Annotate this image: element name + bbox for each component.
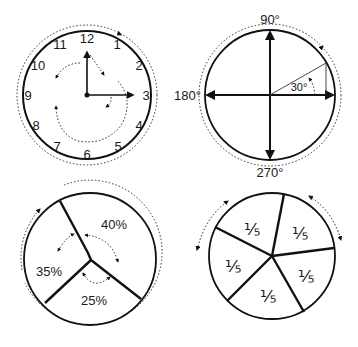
fifths-label-right: ⅕ (298, 267, 314, 286)
fifths-label-top-left: ⅕ (244, 220, 260, 239)
angle-label-180: 180° (174, 88, 201, 103)
angle-label-270: 270° (257, 165, 284, 180)
angle-label-90: 90° (260, 12, 280, 27)
angle-label-30: 30° (291, 81, 308, 93)
circle-diagrams-figure: 12 1 2 3 4 5 6 7 8 9 10 11 30° (0, 0, 358, 347)
clock-number-9: 9 (24, 88, 31, 103)
fifths-label-bottom: ⅕ (260, 287, 276, 306)
clock-number-7: 7 (53, 139, 60, 154)
clock-number-4: 4 (135, 118, 142, 133)
clock-diagram: 12 1 2 3 4 5 6 7 8 9 10 11 (17, 25, 157, 165)
pie-label-40: 40% (101, 217, 127, 232)
clock-number-3: 3 (142, 88, 149, 103)
clock-number-11: 11 (53, 37, 67, 52)
fifths-label-top-right: ⅕ (292, 224, 308, 243)
clock-number-10: 10 (31, 58, 45, 73)
fifths-pie-diagram: ⅕ ⅕ ⅕ ⅕ ⅕ (197, 193, 341, 319)
clock-number-2: 2 (135, 58, 142, 73)
percent-pie-diagram: 40% 35% 25% (21, 180, 162, 325)
clock-number-12: 12 (80, 31, 94, 46)
clock-number-5: 5 (114, 139, 121, 154)
clock-number-8: 8 (32, 118, 39, 133)
clock-number-6: 6 (83, 147, 90, 162)
pie-label-35: 35% (36, 264, 62, 279)
clock-center-pivot (85, 93, 90, 98)
angle-circle-diagram: 30° 90° 180° 270° (174, 12, 341, 180)
fifths-label-left: ⅕ (225, 257, 241, 276)
clock-number-1: 1 (113, 37, 120, 52)
pie-label-25: 25% (81, 293, 107, 308)
